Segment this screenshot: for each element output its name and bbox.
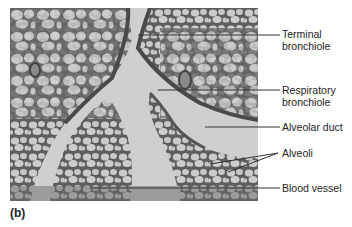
label-line: Terminal bbox=[282, 28, 330, 40]
lung-micrograph bbox=[10, 8, 258, 201]
label-line: Respiratory bbox=[282, 84, 336, 96]
label-line: Alveolar duct bbox=[282, 121, 343, 133]
label-alveolar-duct: Alveolar duct bbox=[282, 121, 343, 133]
label-line: bronchiole bbox=[282, 40, 330, 52]
label-alveoli: Alveoli bbox=[282, 147, 313, 159]
label-line: bronchiole bbox=[282, 96, 336, 108]
label-line: Blood vessel bbox=[282, 182, 342, 194]
label-blood-vessel: Blood vessel bbox=[282, 182, 342, 194]
label-terminal-bronchiole: Terminal bronchiole bbox=[282, 28, 330, 52]
label-respiratory-bronchiole: Respiratory bronchiole bbox=[282, 84, 336, 108]
label-line: Alveoli bbox=[282, 147, 313, 159]
panel-label: (b) bbox=[10, 206, 25, 220]
